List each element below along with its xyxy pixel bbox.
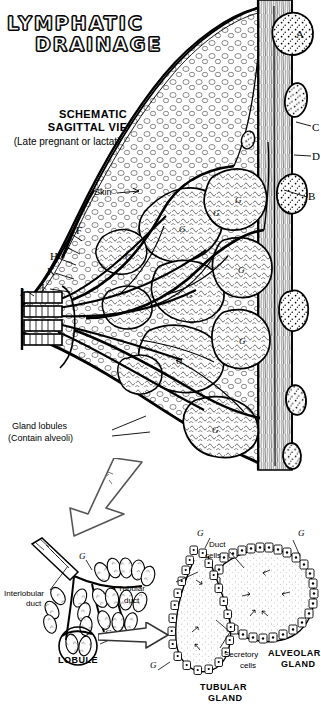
label-skin: Skin bbox=[94, 187, 112, 197]
key-letter-g: G bbox=[238, 265, 245, 275]
label-tubular-duct-line1: Tubular bbox=[118, 584, 145, 593]
key-letter-a: A bbox=[296, 28, 304, 40]
label-interlobular-duct-line1: Interlobular bbox=[4, 589, 44, 598]
caption-tubular-gland-line1: TUBULAR bbox=[200, 682, 247, 692]
key-letter-g: G bbox=[197, 528, 204, 538]
key-letter-f: F bbox=[76, 224, 82, 236]
key-letter-g: G bbox=[239, 336, 246, 346]
label-secretory-cells-line2: cells bbox=[240, 661, 256, 670]
key-letter-g: G bbox=[176, 356, 183, 366]
key-letter-d: D bbox=[312, 150, 320, 162]
label-duct-cells-line2: cells bbox=[205, 551, 221, 560]
key-letter-k: K bbox=[47, 265, 55, 277]
key-letter-j: J bbox=[20, 286, 24, 298]
figure-canvas: LYMPHATIC DRAINAGE L SCHEMATIC SAGITTAL … bbox=[0, 0, 321, 708]
key-letter-g: G bbox=[125, 252, 132, 262]
key-letter-e: E bbox=[63, 239, 70, 251]
label-interlobular-duct-line2: duct bbox=[26, 599, 41, 608]
label-gland-lobules-line2: (Contain alveoli) bbox=[8, 433, 73, 443]
label-secretory-cells-line1: Secretory bbox=[224, 650, 258, 659]
key-letter-g: G bbox=[298, 528, 305, 538]
key-letter-g: G bbox=[235, 195, 242, 205]
key-letter-g: G bbox=[79, 551, 86, 561]
key-letter-g: G bbox=[213, 208, 220, 218]
key-letter-g: G bbox=[179, 224, 186, 234]
gland-detail-illustration bbox=[150, 520, 321, 708]
label-gland-lobules-line1: Gland lobules bbox=[12, 421, 67, 431]
key-letter-i: I bbox=[41, 281, 45, 293]
caption-tubular-gland-line2: GLAND bbox=[208, 693, 243, 703]
key-letter-c: C bbox=[312, 121, 319, 133]
key-letter-g: G bbox=[186, 290, 193, 300]
key-letter-h: H bbox=[50, 250, 58, 262]
key-letter-g: G bbox=[150, 660, 157, 670]
caption-alveolar-gland-line1: ALVEOLAR bbox=[268, 648, 321, 658]
label-duct-cells-line1: Duct bbox=[209, 540, 225, 549]
key-letter-b: B bbox=[308, 190, 315, 202]
caption-lobule: LOBULE bbox=[58, 655, 98, 665]
key-letter-g: G bbox=[212, 425, 219, 435]
caption-alveolar-gland-line2: GLAND bbox=[281, 659, 316, 669]
label-tubular-duct-line2: duct bbox=[124, 596, 139, 605]
